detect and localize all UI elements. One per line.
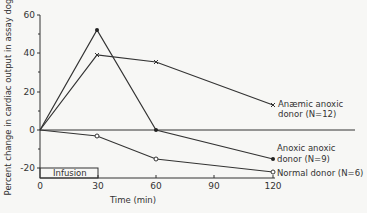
marker-filled-circle xyxy=(154,128,158,132)
y-tick-40: 40 xyxy=(24,48,36,58)
marker-filled-circle xyxy=(95,28,99,32)
y-tick-60: 60 xyxy=(24,10,36,20)
y-tick-neg20: -20 xyxy=(20,163,35,173)
x-tick-30: 30 xyxy=(92,181,104,191)
label-anoxic-2: donor (N=9) xyxy=(277,154,330,164)
chart: 60 40 20 0 -20 0 30 60 90 120 Percent ch… xyxy=(0,0,367,213)
x-tick-120: 120 xyxy=(264,181,281,191)
x-tick-0: 0 xyxy=(37,181,43,191)
marker-open-circle xyxy=(271,170,275,174)
x-axis-label: Time (min) xyxy=(109,195,156,205)
label-anaemic-2: donor (N=12) xyxy=(278,109,336,119)
y-tick-0: 0 xyxy=(29,125,35,135)
marker-open-circle xyxy=(95,134,99,138)
label-anoxic-1: Anoxic anoxic xyxy=(277,143,336,153)
series-anaemic-anoxic xyxy=(40,55,273,130)
x-tick-90: 90 xyxy=(208,181,220,191)
x-tick-60: 60 xyxy=(150,181,162,191)
y-axis-label: Percent change in cardiac output in assa… xyxy=(3,0,13,195)
y-ticks: 60 40 20 0 -20 xyxy=(20,10,40,173)
series-normal xyxy=(40,130,273,172)
series-anoxic-anoxic xyxy=(40,30,273,159)
marker-filled-circle xyxy=(271,157,275,161)
label-normal: Normal donor (N=6) xyxy=(277,168,363,178)
marker-x xyxy=(95,53,275,107)
label-anaemic-1: Anæmic anoxic xyxy=(278,99,343,109)
marker-open-circle xyxy=(154,157,158,161)
y-tick-20: 20 xyxy=(24,87,36,97)
infusion-label: Infusion xyxy=(53,168,87,178)
